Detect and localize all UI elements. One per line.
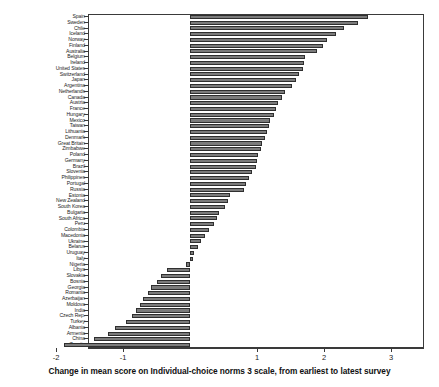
y-axis-tick bbox=[84, 333, 88, 334]
bar bbox=[190, 205, 225, 209]
bar bbox=[190, 49, 317, 53]
bar bbox=[190, 228, 209, 232]
y-axis-tick bbox=[84, 85, 88, 86]
x-axis-title: Change in mean score on Individual-choic… bbox=[0, 366, 439, 376]
y-axis-tick bbox=[84, 51, 88, 52]
x-axis-tick-label: -2 bbox=[41, 353, 71, 362]
bar bbox=[190, 118, 270, 122]
bar bbox=[190, 61, 304, 65]
bar bbox=[190, 216, 217, 220]
y-axis-tick bbox=[84, 298, 88, 299]
y-axis-tick bbox=[84, 56, 88, 57]
bar bbox=[157, 280, 191, 284]
y-axis-tick bbox=[84, 171, 88, 172]
y-axis-tick bbox=[84, 79, 88, 80]
y-axis-tick bbox=[84, 189, 88, 190]
y-axis-tick bbox=[84, 108, 88, 109]
y-axis-tick bbox=[84, 315, 88, 316]
x-axis-tick-label: 2 bbox=[309, 353, 339, 362]
y-axis-tick bbox=[84, 241, 88, 242]
y-axis-tick bbox=[84, 183, 88, 184]
y-axis-tick bbox=[84, 206, 88, 207]
y-axis-tick bbox=[84, 229, 88, 230]
x-axis-tick bbox=[391, 348, 392, 352]
x-axis-line bbox=[88, 348, 424, 349]
y-axis-tick bbox=[84, 275, 88, 276]
bar-rows-container: SpainSwedenChileIcelandNorwayFinlandAust… bbox=[0, 14, 439, 348]
bar bbox=[190, 15, 368, 19]
bar bbox=[190, 101, 278, 105]
y-axis-tick bbox=[84, 148, 88, 149]
x-axis-tick bbox=[56, 348, 57, 352]
bar bbox=[161, 274, 190, 278]
x-axis-tick-label: 1 bbox=[242, 353, 272, 362]
y-axis-tick bbox=[84, 16, 88, 17]
bar bbox=[190, 26, 344, 30]
bar bbox=[140, 303, 190, 307]
bar bbox=[190, 211, 219, 215]
y-axis-tick bbox=[84, 160, 88, 161]
bar bbox=[190, 107, 276, 111]
bar bbox=[190, 55, 305, 59]
bar bbox=[190, 159, 257, 163]
bar bbox=[190, 245, 198, 249]
y-axis-tick bbox=[84, 28, 88, 29]
x-axis-tick-label: -1 bbox=[108, 353, 138, 362]
bar bbox=[190, 239, 201, 243]
bar bbox=[190, 95, 282, 99]
y-axis-tick bbox=[84, 327, 88, 328]
y-axis-tick bbox=[84, 177, 88, 178]
bar bbox=[190, 84, 292, 88]
y-axis-tick bbox=[84, 281, 88, 282]
bar bbox=[143, 297, 190, 301]
y-axis-tick bbox=[84, 62, 88, 63]
y-axis-tick bbox=[84, 269, 88, 270]
y-axis-tick bbox=[84, 22, 88, 23]
y-axis-tick bbox=[84, 131, 88, 132]
y-axis-tick bbox=[84, 338, 88, 339]
bar bbox=[148, 291, 190, 295]
bar bbox=[94, 337, 190, 341]
y-axis-tick bbox=[84, 45, 88, 46]
bar bbox=[108, 332, 190, 336]
bar bbox=[190, 188, 244, 192]
bar bbox=[190, 67, 303, 71]
bar bbox=[190, 72, 299, 76]
bar bbox=[190, 257, 193, 261]
individual-choice-norms-bar-chart: SpainSwedenChileIcelandNorwayFinlandAust… bbox=[0, 0, 439, 387]
y-axis-tick bbox=[84, 200, 88, 201]
bar bbox=[190, 251, 194, 255]
y-axis-tick bbox=[84, 97, 88, 98]
bar bbox=[190, 170, 252, 174]
y-axis-tick bbox=[84, 287, 88, 288]
x-axis-tick bbox=[257, 348, 258, 352]
bar bbox=[151, 285, 190, 289]
x-axis-tick bbox=[123, 348, 124, 352]
x-axis-tick-label: 3 bbox=[376, 353, 406, 362]
y-axis-tick bbox=[84, 102, 88, 103]
y-axis-tick bbox=[84, 195, 88, 196]
y-axis-tick bbox=[84, 223, 88, 224]
y-axis-tick bbox=[84, 114, 88, 115]
y-axis-tick bbox=[84, 258, 88, 259]
bar bbox=[190, 130, 267, 134]
y-axis-tick bbox=[84, 120, 88, 121]
bar bbox=[190, 136, 265, 140]
bar bbox=[190, 78, 296, 82]
y-axis-tick bbox=[84, 39, 88, 40]
bar bbox=[190, 147, 261, 151]
bar bbox=[186, 262, 190, 266]
bar bbox=[190, 199, 228, 203]
y-axis-tick bbox=[84, 166, 88, 167]
bar bbox=[190, 124, 269, 128]
bar bbox=[190, 113, 274, 117]
y-axis-tick bbox=[84, 154, 88, 155]
bar bbox=[190, 32, 336, 36]
bar bbox=[190, 90, 285, 94]
bar bbox=[190, 21, 358, 25]
bar bbox=[126, 320, 190, 324]
y-axis-tick bbox=[84, 321, 88, 322]
bar bbox=[136, 308, 190, 312]
y-axis-tick bbox=[84, 218, 88, 219]
y-axis-tick bbox=[84, 264, 88, 265]
